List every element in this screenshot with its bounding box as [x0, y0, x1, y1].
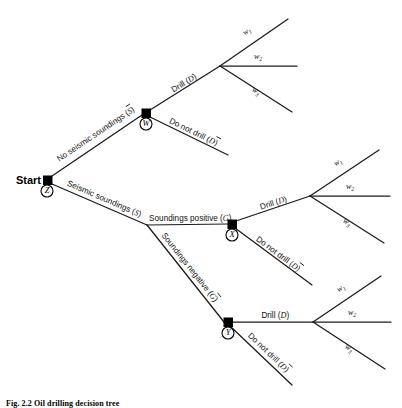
payoff-label-x-2: w2: [346, 182, 354, 192]
label-text-do-not-drill-from-w: Do not drill (: [168, 116, 212, 144]
node-letter-w: W: [142, 118, 150, 128]
branch-label-do-not-drill-from-w: Do not drill (D): [145, 104, 238, 157]
branch-line-drill-from-w: [150, 66, 220, 110]
svg-text:Do not drill (D): Do not drill (D): [234, 220, 318, 286]
payoff-subscript-y-2: 2: [353, 312, 356, 318]
svg-text:Do not drill (D): Do not drill (D): [228, 314, 306, 388]
branch-label-soundings-negative: Soundings negative (G): [144, 211, 234, 320]
label-text-soundings-negative: Soundings negative (: [160, 231, 215, 297]
svg-text:Soundings positive (G): Soundings positive (G): [124, 214, 252, 223]
node-letter-z: Z: [45, 185, 50, 195]
node-letter-x: X: [228, 229, 235, 239]
svg-text:Drill (D): Drill (D): [236, 311, 309, 320]
payoff-subscript-x-2: 2: [351, 186, 354, 192]
svg-text:Soundings negative (G): Soundings negative (G): [144, 211, 233, 319]
label-paren-drill-from-y: ): [286, 311, 289, 320]
branch-line-do-not-drill-from-y: [231, 327, 292, 385]
branch-line-soundings-negative: [147, 225, 224, 322]
label-text-do-not-drill-from-x: Do not drill (: [254, 235, 295, 269]
svg-text:w2: w2: [346, 182, 354, 192]
branch-label-drill-from-w: Drill (D): [149, 61, 216, 107]
payoff-label-w-1: w1: [241, 25, 254, 38]
payoff-fan-w: [220, 19, 297, 112]
figure-caption: Fig. 2.2 Oil drilling decision tree: [6, 399, 119, 408]
branch-label-do-not-drill-from-x: Do not drill (D): [234, 219, 319, 286]
payoff-fan-x: [310, 150, 390, 243]
svg-text:w2: w2: [254, 52, 262, 62]
svg-text:w1: w1: [241, 25, 254, 38]
branch-label-drill-from-y: Drill (D): [236, 311, 309, 320]
branch-label-drill-from-x: Drill (D): [235, 188, 307, 220]
label-text-do-not-drill-from-y: Do not drill (: [246, 331, 284, 368]
label-text-seismic-soundings: Seismic soundings (: [66, 179, 137, 217]
label-text-drill-from-y: Drill (: [261, 311, 280, 320]
branch-line-no-seismic-soundings: [52, 115, 142, 176]
label-paren-soundings-positive: ): [229, 214, 232, 223]
payoff-label-y-2: w2: [348, 308, 356, 318]
branch-line-do-not-drill-from-w: [150, 117, 228, 155]
payoff-label-y-1: w1: [335, 282, 348, 295]
payoff-subscript-w-2: 2: [259, 56, 262, 62]
payoff-label-w-2: w2: [254, 52, 262, 62]
payoff-branch-x1: [310, 150, 379, 196]
branch-label-do-not-drill-from-y: Do not drill (D): [228, 313, 307, 388]
label-text-no-seismic-soundings: No seismic soundings (: [55, 109, 130, 164]
branch-label-soundings-positive: Soundings positive (G): [124, 214, 252, 223]
svg-text:w1: w1: [332, 156, 345, 169]
payoff-label-x-1: w1: [332, 156, 345, 169]
svg-text:w1: w1: [335, 282, 348, 295]
svg-text:No seismic soundings (S): No seismic soundings (S): [35, 93, 154, 177]
branch-lines: [52, 66, 313, 385]
svg-text:w2: w2: [348, 308, 356, 318]
payoff-fan-y: [313, 276, 391, 369]
svg-text:Drill (D): Drill (D): [149, 61, 216, 107]
branch-label-no-seismic-soundings: No seismic soundings (S): [34, 92, 153, 177]
svg-text:Do not drill (D): Do not drill (D): [145, 105, 237, 156]
branch-line-do-not-drill-from-x: [235, 228, 312, 285]
svg-text:Drill (D): Drill (D): [235, 188, 307, 220]
